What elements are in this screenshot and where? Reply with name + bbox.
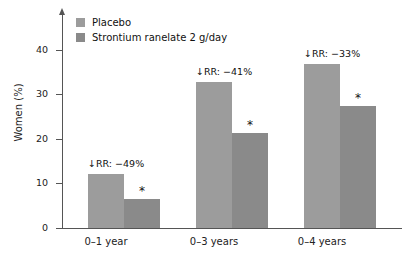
significance-star-0-1-year: * <box>136 185 148 197</box>
legend-swatch-icon-strontium <box>76 33 85 42</box>
x-axis-line <box>62 228 402 229</box>
bar-placebo-0-4-years <box>304 64 340 228</box>
significance-star-0-3-years: * <box>244 119 256 131</box>
bar-strontium-0-3-years <box>232 133 268 228</box>
bar-chart: 40 30 20 10 0 Women (%) ↓RR: −49% ↓RR: −… <box>0 0 411 266</box>
bar-placebo-0-3-years <box>196 82 232 228</box>
chart-legend: Placebo Strontium ranelate 2 g/day <box>76 17 227 47</box>
significance-star-0-4-years: * <box>352 92 364 104</box>
legend-item-strontium: Strontium ranelate 2 g/day <box>76 32 227 43</box>
x-axis-label-0-1-year: 0–1 year <box>60 236 152 247</box>
legend-label-strontium: Strontium ranelate 2 g/day <box>92 33 227 43</box>
bar-strontium-0-1-year <box>124 199 160 228</box>
legend-label-placebo: Placebo <box>92 18 131 28</box>
rr-annotation-0-3-years: ↓RR: −41% <box>196 67 252 77</box>
legend-swatch-icon-placebo <box>76 18 85 27</box>
y-axis-label-20: 20 <box>26 134 48 144</box>
x-axis-label-0-4-years: 0–4 years <box>276 236 368 247</box>
rr-annotation-0-4-years: ↓RR: −33% <box>304 49 360 59</box>
x-axis-label-0-3-years: 0–3 years <box>168 236 260 247</box>
y-axis-label-0: 0 <box>26 223 48 233</box>
rr-annotation-0-1-year: ↓RR: −49% <box>88 159 144 169</box>
y-axis-label-40: 40 <box>26 45 48 55</box>
y-axis-title: Women (%) <box>13 78 24 148</box>
y-axis-label-10: 10 <box>26 178 48 188</box>
y-axis-label-30: 30 <box>26 89 48 99</box>
bar-strontium-0-4-years <box>340 106 376 228</box>
bar-placebo-0-1-year <box>88 174 124 228</box>
legend-item-placebo: Placebo <box>76 17 227 28</box>
